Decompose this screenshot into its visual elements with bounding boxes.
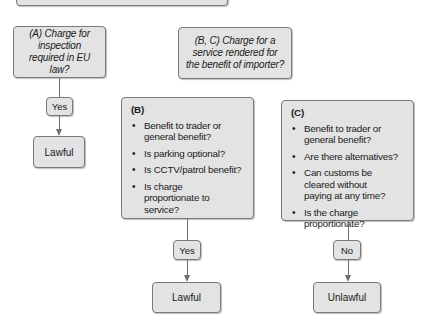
answer-b-text: Yes [179, 245, 195, 256]
answer-a-text: Yes [52, 101, 68, 112]
criteria-b-item: •Is parking optional? [131, 148, 247, 160]
criteria-b-item: •Benefit to trader or general benefit? [131, 120, 247, 143]
question-a-box: (A) Charge for inspection required in EU… [13, 26, 106, 78]
bullet-icon: • [132, 148, 135, 160]
arrow-down-icon [184, 275, 190, 282]
question-a-text: (A) Charge for inspection required in EU… [20, 28, 99, 76]
answer-c-no-box: No [333, 240, 361, 260]
flowchart: (A) Charge for inspection required in EU… [0, 0, 428, 324]
answer-b-yes-box: Yes [173, 240, 201, 260]
criteria-b-list: •Benefit to trader or general benefit? •… [131, 120, 247, 216]
criteria-b-item: •Is charge proportionate to service? [131, 181, 247, 216]
result-c-unlawful-box: Unlawful [313, 282, 381, 313]
answer-a-yes-box: Yes [46, 97, 73, 116]
criteria-c-item: •Is the charge proportionate? [291, 207, 407, 230]
bullet-icon: • [132, 120, 135, 132]
bullet-icon: • [292, 151, 295, 163]
result-a-text: Lawful [45, 147, 74, 158]
criteria-b-box: (B) •Benefit to trader or general benefi… [121, 97, 254, 219]
criteria-b-title: (B) [131, 104, 247, 116]
bullet-icon: • [292, 167, 295, 179]
criteria-c-item: •Are there alternatives? [291, 151, 407, 163]
bullet-icon: • [292, 123, 295, 135]
connector-a-1 [59, 78, 60, 97]
connector-c-1 [348, 221, 349, 240]
bullet-icon: • [132, 181, 135, 193]
bullet-icon: • [292, 207, 295, 219]
question-bc-box: (B, C) Charge for a service rendered for… [178, 27, 292, 79]
bullet-icon: • [132, 164, 135, 176]
result-a-lawful-box: Lawful [33, 136, 85, 168]
top-box [16, 0, 228, 6]
question-bc-text: (B, C) Charge for a service rendered for… [185, 35, 285, 71]
result-c-text: Unlawful [328, 292, 366, 303]
criteria-c-title: (C) [291, 107, 407, 119]
result-b-text: Lawful [172, 292, 201, 303]
criteria-c-box: (C) •Benefit to trader or general benefi… [281, 100, 414, 221]
arrow-down-icon [56, 129, 62, 136]
criteria-c-item: •Can customs be cleared without paying a… [291, 167, 407, 202]
result-b-lawful-box: Lawful [152, 282, 221, 313]
criteria-c-list: •Benefit to trader or general benefit? •… [291, 123, 407, 230]
answer-c-text: No [341, 245, 353, 256]
connector-a-2 [59, 116, 60, 130]
arrow-down-icon [345, 275, 351, 282]
criteria-c-item: •Benefit to trader or general benefit? [291, 123, 407, 146]
criteria-b-item: •Is CCTV/patrol benefit? [131, 164, 247, 176]
connector-b-2 [187, 260, 188, 275]
connector-c-2 [348, 260, 349, 275]
connector-b-1 [187, 219, 188, 240]
